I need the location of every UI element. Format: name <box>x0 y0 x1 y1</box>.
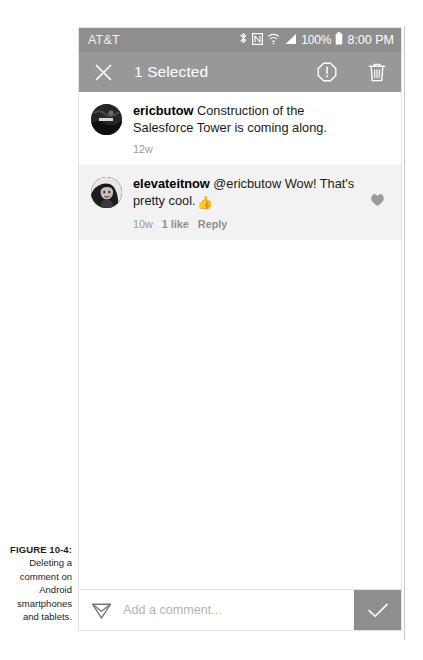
figure-number: FIGURE 10-4: <box>10 544 72 555</box>
comment-body: elevateitnow @ericbutow Wow! That's pret… <box>122 176 365 230</box>
close-icon[interactable] <box>91 60 115 84</box>
wifi-icon <box>267 31 280 49</box>
post-comment-button[interactable] <box>354 590 401 630</box>
comment-meta: 10w 1 like Reply <box>133 218 359 230</box>
page-canvas: FIGURE 10-4: Deleting a comment on Andro… <box>0 0 423 660</box>
battery-full-icon <box>335 31 343 49</box>
like-heart-icon[interactable] <box>365 176 389 207</box>
comment-reply-button[interactable]: Reply <box>198 218 227 230</box>
clock-label: 8:00 PM <box>347 33 394 47</box>
comment-body: ericbutow Construction of the Salesforce… <box>122 103 365 155</box>
comment-text: ericbutow Construction of the Salesforce… <box>133 103 359 136</box>
battery-percent-label: 100% <box>301 33 331 47</box>
figure-caption-text: Deleting a comment on Android smartphone… <box>17 557 72 622</box>
avatar-elevateitnow[interactable] <box>91 177 122 208</box>
status-bar: AT&T <box>79 28 401 52</box>
figure-caption: FIGURE 10-4: Deleting a comment on Andro… <box>0 543 72 623</box>
signal-icon <box>284 31 297 49</box>
comment-meta: 12w <box>133 143 359 155</box>
carrier-label: AT&T <box>88 33 120 47</box>
comment-text: elevateitnow @ericbutow Wow! That's pret… <box>133 176 359 211</box>
comment-timestamp: 10w <box>133 218 153 230</box>
status-icons: 100% 8:00 PM <box>239 31 394 49</box>
comment-row[interactable]: elevateitnow @ericbutow Wow! That's pret… <box>79 165 401 240</box>
comment-username[interactable]: ericbutow <box>133 103 193 118</box>
avatar-ericbutow[interactable] <box>91 104 122 135</box>
bluetooth-icon <box>239 31 248 49</box>
toolbar-title: 1 Selected <box>134 63 208 81</box>
trash-icon[interactable] <box>365 60 389 84</box>
add-comment-input[interactable] <box>123 590 354 630</box>
phone-screenshot: AT&T <box>79 28 401 630</box>
comment-like-count: 1 like <box>162 218 189 230</box>
report-alert-icon[interactable] <box>315 60 339 84</box>
comment-username[interactable]: elevateitnow <box>133 176 210 191</box>
comment-composer <box>79 589 401 630</box>
paper-plane-icon[interactable] <box>79 590 123 630</box>
comment-list: ericbutow Construction of the Salesforce… <box>79 92 401 589</box>
page-margin-rule <box>404 26 405 640</box>
nfc-icon <box>252 31 263 49</box>
toolbar-actions <box>315 60 389 84</box>
like-column <box>365 103 389 120</box>
thumbs-up-emoji: 👍 <box>197 195 213 212</box>
selection-toolbar: 1 Selected <box>79 52 401 92</box>
comment-row[interactable]: ericbutow Construction of the Salesforce… <box>79 92 401 165</box>
comment-timestamp: 12w <box>133 143 153 155</box>
